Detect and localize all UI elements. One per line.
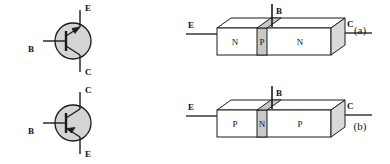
row-a: E C B N P N E C B bbox=[28, 3, 372, 77]
block-left-terminal-label: E bbox=[188, 102, 194, 112]
symbol-top-terminal-label: E bbox=[85, 3, 91, 13]
block-region-left-label: N bbox=[232, 37, 239, 47]
row-b: C E B P N P E C B (b) bbox=[28, 85, 372, 159]
pnp-transistor-symbol: C E B bbox=[28, 85, 92, 159]
block-top-terminal-label: B bbox=[276, 88, 282, 98]
symbol-left-terminal-label: B bbox=[28, 126, 34, 136]
npn-block-diagram: N P N E C B bbox=[186, 4, 372, 55]
block-region-middle-label: P bbox=[259, 37, 264, 47]
block-region-right-label: N bbox=[297, 37, 304, 47]
block-top-face bbox=[217, 100, 345, 110]
block-top-face bbox=[217, 18, 345, 28]
block-region-right-label: P bbox=[297, 119, 302, 129]
row-caption-b: (b) bbox=[354, 120, 367, 133]
symbol-top-terminal-label: C bbox=[85, 85, 92, 95]
block-left-terminal-label: E bbox=[188, 20, 194, 30]
block-right-terminal-label: C bbox=[347, 19, 354, 29]
block-top-terminal-label: B bbox=[276, 6, 282, 16]
symbol-bottom-terminal-label: E bbox=[85, 149, 91, 159]
npn-transistor-symbol: E C B bbox=[28, 3, 92, 77]
block-region-middle-label: N bbox=[259, 119, 266, 129]
pnp-block-diagram: P N P E C B bbox=[186, 86, 372, 137]
block-region-left-label: P bbox=[232, 119, 237, 129]
transistor-figure: E C B N P N E C B bbox=[0, 0, 390, 164]
symbol-left-terminal-label: B bbox=[28, 44, 34, 54]
block-right-terminal-label: C bbox=[347, 101, 354, 111]
row-caption-a: (a) bbox=[354, 24, 367, 37]
symbol-bottom-terminal-label: C bbox=[85, 67, 92, 77]
